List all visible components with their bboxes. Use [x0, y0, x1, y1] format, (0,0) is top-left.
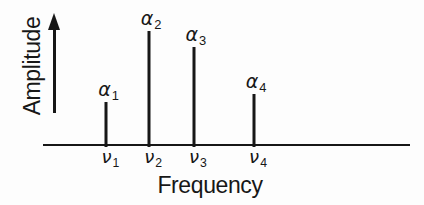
frequency-tick-label-2: ν2	[144, 148, 162, 166]
y-axis-line	[53, 25, 56, 113]
frequency-tick-label-3: ν3	[189, 148, 207, 166]
frequency-tick-label-1: ν1	[102, 148, 120, 166]
amplitude-label-3: α3	[185, 25, 206, 44]
x-axis-label: Frequency	[157, 172, 262, 199]
frequency-tick-label-4: ν4	[249, 148, 267, 166]
x-axis-line	[43, 144, 410, 147]
amplitude-label-4: α4	[246, 72, 267, 91]
stem-line-3	[192, 47, 195, 147]
amplitude-label-1: α1	[98, 80, 119, 99]
y-axis-label: Amplitude	[19, 17, 46, 116]
amplitude-label-2: α2	[141, 9, 162, 28]
stem-line-1	[105, 102, 108, 147]
stem-line-2	[148, 31, 151, 147]
stem-line-4	[253, 94, 256, 147]
arrow-up-icon	[48, 13, 60, 30]
spectrum-figure: Amplitude α1ν1α2ν2α3ν3α4ν4 Frequency	[0, 0, 424, 205]
